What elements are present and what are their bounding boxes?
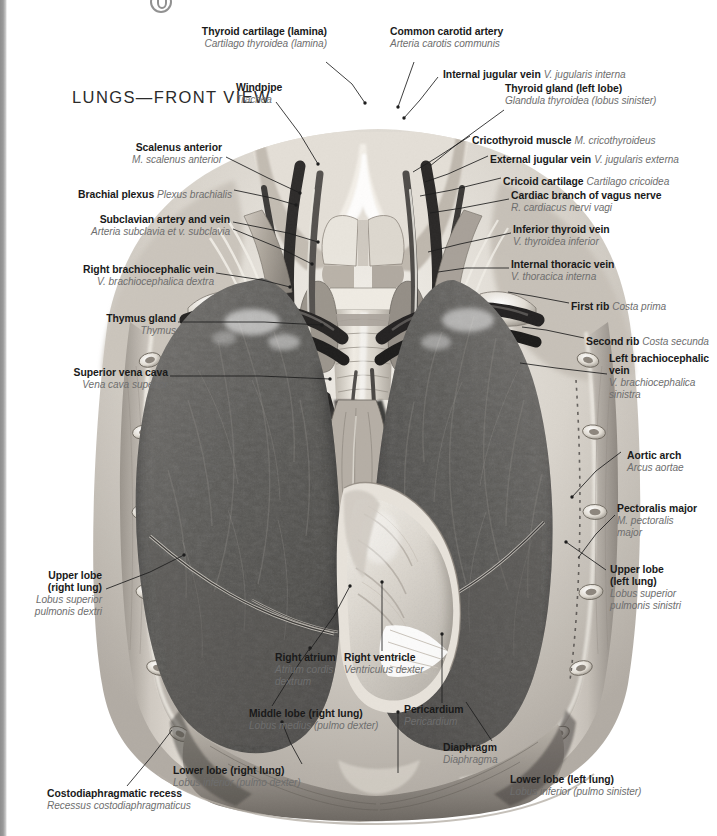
- label-first-rib: First ribCosta prima: [571, 296, 717, 315]
- label-left-brachiocephalic-vein: Left brachiocephalic vein V. brachioceph…: [609, 353, 717, 401]
- label-right-ventricle: Right ventricle Ventriculus dexter: [344, 652, 440, 676]
- label-subclavian-artery-vein: Subclavian artery and vein Arteria subcl…: [10, 214, 230, 238]
- label-brachial-plexus: Brachial plexusPlexus brachialis: [20, 184, 232, 203]
- label-internal-thoracic-vein: Internal thoracic vein V. thoracica inte…: [511, 259, 717, 283]
- label-thymus-gland: Thymus gland Thymus: [30, 313, 176, 337]
- label-diaphragm: Diaphragm Diaphragma: [443, 742, 547, 766]
- label-lower-lobe-right-lung: Lower lobe (right lung) Lobus inferior (…: [173, 765, 353, 789]
- label-superior-vena-cava: Superior vena cava Vena cava superior: [8, 367, 168, 391]
- label-thyroid-gland-left-lobe: Thyroid gland (left lobe) Glandula thyro…: [505, 83, 717, 107]
- label-scalenus-anterior: Scalenus anterior M. scalenus anterior: [30, 142, 222, 166]
- page-gutter-shadow: [0, 0, 7, 836]
- label-upper-lobe-right-lung: Upper lobe (right lung) Lobus superior p…: [6, 570, 102, 618]
- label-external-jugular-vein: External jugular veinV. jugularis extern…: [490, 149, 717, 168]
- label-inferior-thyroid-vein: Inferior thyroid vein V. thyroidea infer…: [513, 224, 717, 248]
- atlas-page: LUNGS—FRONT VIEW Thyroid cartilage (lami…: [0, 0, 717, 836]
- label-cricothyroid-muscle: Cricothyroid muscleM. cricothyroideus: [472, 130, 717, 149]
- label-costodiaphragmatic-recess: Costodiaphragmatic recess Recessus costo…: [47, 788, 257, 812]
- label-aortic-arch: Aortic arch Arcus aortae: [627, 450, 717, 474]
- label-common-carotid-artery: Common carotid artery Arteria carotis co…: [390, 26, 620, 50]
- label-thyroid-cartilage: Thyroid cartilage (lamina) Cartilago thy…: [82, 26, 327, 50]
- label-internal-jugular-vein: Internal jugular veinV. jugularis intern…: [443, 64, 715, 83]
- label-pectoralis-major: Pectoralis major M. pectoralis major: [617, 503, 717, 538]
- label-windpipe: Windpipe Trachea: [236, 82, 336, 106]
- label-lower-lobe-left-lung: Lower lobe (left lung) Lobus inferior (p…: [510, 774, 700, 798]
- label-upper-lobe-left-lung: Upper lobe (left lung) Lobus superior pu…: [610, 564, 717, 612]
- label-cardiac-branch-vagus: Cardiac branch of vagus nerve R. cardiac…: [511, 190, 717, 214]
- label-right-brachiocephalic-vein: Right brachiocephalic vein V. brachiocep…: [8, 264, 214, 288]
- label-second-rib: Second ribCosta secunda: [586, 331, 717, 350]
- label-cricoid-cartilage: Cricoid cartilageCartilago cricoidea: [503, 171, 717, 190]
- label-pericardium: Pericardium Pericardium: [404, 704, 514, 728]
- label-right-atrium: Right atrium Atrium cordis dextrum: [275, 652, 345, 687]
- label-middle-lobe-right-lung: Middle lobe (right lung) Lobus medius (p…: [249, 708, 421, 732]
- page-corner-glyph-icon: [150, 0, 172, 13]
